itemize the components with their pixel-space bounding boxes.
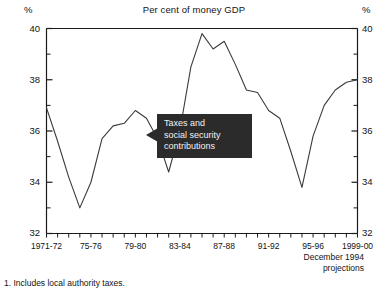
y-tick-label-40-right: 40	[362, 23, 384, 34]
y-tick-label-32-left: 32	[20, 227, 40, 238]
y-tick-label-36-left: 36	[20, 125, 40, 136]
x-tick-label-83-84: 83-84	[169, 241, 191, 251]
x-tick-label-91-92: 91-92	[258, 241, 280, 251]
chart-footnote: 1. Includes local authority taxes.	[4, 278, 125, 288]
callout-line-2: social security	[164, 130, 246, 142]
x-tick-label-75-76: 75-76	[80, 241, 102, 251]
projection-line-2: projections	[304, 263, 364, 274]
y-tick-label-32-right: 32	[362, 227, 384, 238]
chart-figure: % Per cent of money GDP % 40 38 36 34 32…	[0, 0, 388, 294]
x-tick-label-1999-00: 1999-00	[342, 241, 373, 251]
projection-line-1: December 1994	[304, 252, 364, 263]
y-tick-label-34-right: 34	[362, 176, 384, 187]
x-tick-label-1971-72: 1971-72	[31, 241, 62, 251]
series-callout-label: Taxes and social security contributions	[157, 114, 252, 158]
x-tick-label-95-96: 95-96	[302, 241, 324, 251]
y-tick-label-40-left: 40	[20, 23, 40, 34]
y-tick-label-38-left: 38	[20, 74, 40, 85]
y-tick-label-36-right: 36	[362, 125, 384, 136]
callout-line-3: contributions	[164, 141, 246, 153]
callout-line-1: Taxes and	[164, 118, 246, 130]
x-tick-label-87-88: 87-88	[213, 241, 235, 251]
y-tick-label-38-right: 38	[362, 74, 384, 85]
projection-note: December 1994 projections	[304, 252, 364, 274]
x-tick-label-79-80: 79-80	[124, 241, 146, 251]
y-tick-label-34-left: 34	[20, 176, 40, 187]
